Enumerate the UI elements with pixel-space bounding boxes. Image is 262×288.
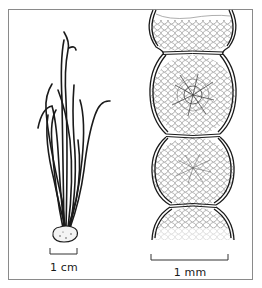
holdfast	[53, 226, 78, 242]
illustration	[0, 0, 262, 288]
alga-tuft	[38, 32, 110, 228]
cell-chain	[149, 10, 240, 242]
scale-label-cm: 1 cm	[48, 261, 80, 274]
scale-bar-cm	[50, 248, 77, 254]
scale-bar-mm	[151, 254, 228, 260]
scale-label-mm: 1 mm	[170, 266, 210, 279]
